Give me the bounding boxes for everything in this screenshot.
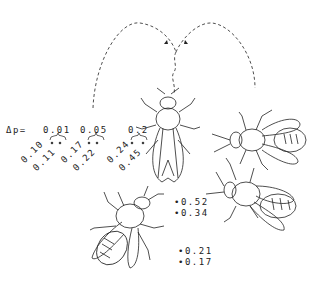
bottom-value-b: •0.17 <box>178 258 213 267</box>
right-value-b: •0.34 <box>174 209 209 218</box>
diagram: Δp= 0.01 0.05 0.2 0.10 0.11 0.17 0.22 0.… <box>0 0 324 287</box>
bottom-value-a: •0.21 <box>178 247 213 256</box>
right-value-a: •0.52 <box>174 198 209 207</box>
brackets <box>0 0 324 287</box>
